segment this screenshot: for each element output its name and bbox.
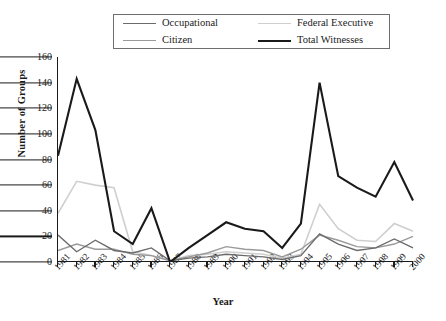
y-tick-mark <box>0 210 52 211</box>
legend-swatch-citizen <box>123 40 156 41</box>
legend-item-citizen: Citizen <box>114 35 249 46</box>
y-tick-mark <box>0 133 52 134</box>
chart-figure: Occupational Federal Executive Citizen T… <box>0 0 446 321</box>
legend-label-federal-executive: Federal Executive <box>297 18 373 29</box>
legend-item-federal-executive: Federal Executive <box>249 18 391 29</box>
legend-label-occupational: Occupational <box>162 18 218 29</box>
legend-label-citizen: Citizen <box>162 35 192 46</box>
series-line-total-witnesses <box>58 79 413 262</box>
y-tick-mark <box>0 82 52 83</box>
x-axis-title: Year <box>0 296 446 307</box>
legend-swatch-occupational <box>123 23 156 24</box>
y-tick-mark <box>0 159 52 160</box>
y-tick-mark <box>0 108 52 109</box>
plot-area <box>57 57 413 262</box>
legend-item-occupational: Occupational <box>114 18 249 29</box>
y-tick-mark <box>0 185 52 186</box>
series-line-citizen <box>58 235 413 261</box>
legend-item-total-witnesses: Total Witnesses <box>249 35 391 46</box>
y-tick-mark <box>0 261 52 262</box>
chart-legend: Occupational Federal Executive Citizen T… <box>113 14 390 49</box>
legend-swatch-federal-executive <box>258 23 291 24</box>
legend-swatch-total-witnesses <box>258 40 291 42</box>
y-tick-mark <box>0 236 52 237</box>
y-tick-mark <box>0 56 52 57</box>
series-lines <box>58 57 414 262</box>
legend-label-total-witnesses: Total Witnesses <box>297 35 363 46</box>
